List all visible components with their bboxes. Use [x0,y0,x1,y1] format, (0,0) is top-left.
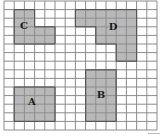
shape-cell-a [35,87,45,96]
shape-cell-b [106,87,116,96]
shape-cell-b [106,78,116,87]
shape-cell-a [14,113,24,122]
scan-artifact-dash [148,133,160,134]
shape-cell-d [106,35,116,44]
shape-cell-b [96,104,106,113]
shape-cell-d [96,35,106,44]
shape-cell-d [126,18,136,27]
shape-label-b: B [97,90,105,100]
shape-cell-d [75,18,85,27]
shape-label-c: C [20,21,28,31]
shape-cell-d [116,10,126,19]
shape-cell-b [106,96,116,105]
shape-cell-d [116,35,126,44]
shape-cell-a [24,87,34,96]
shape-cell-a [14,87,24,96]
shape-cell-a [35,104,45,113]
shape-cell-c [14,10,24,19]
shape-cell-a [45,87,55,96]
shape-cell-d [126,10,136,19]
shape-cell-c [24,10,34,19]
shape-cell-d [116,53,126,62]
shape-cell-a [14,96,24,105]
shape-cell-b [86,78,96,87]
shape-cell-b [86,87,96,96]
shape-cell-a [24,113,34,122]
shape-cell-d [75,10,85,19]
shape-label-a: A [28,97,36,107]
shape-cell-b [86,113,96,122]
shape-cell-c [35,35,45,44]
shape-cell-a [14,104,24,113]
shape-cell-a [45,113,55,122]
shape-cell-d [126,27,136,36]
shape-cell-b [106,70,116,79]
shape-cell-b [86,70,96,79]
shape-label-d: D [109,22,118,32]
shape-cell-d [96,18,106,27]
shape-cell-c [45,27,55,36]
shape-cell-c [45,35,55,44]
shape-cell-b [96,78,106,87]
shape-cell-d [96,27,106,36]
shape-cell-d [126,35,136,44]
shape-cell-a [35,113,45,122]
shape-cell-c [35,27,45,36]
shape-cell-b [106,113,116,122]
shape-cell-d [116,44,126,53]
shape-cell-b [96,70,106,79]
shape-cell-d [86,18,96,27]
shape-cell-d [126,53,136,62]
shape-cell-b [86,104,96,113]
shape-cell-d [106,10,116,19]
shape-cell-d [116,27,126,36]
shape-cell-a [45,104,55,113]
shape-cell-d [96,10,106,19]
shape-cell-b [106,104,116,113]
shape-cell-c [24,35,34,44]
shape-cell-a [45,96,55,105]
shape-cell-b [96,113,106,122]
shape-cell-d [86,10,96,19]
shape-cell-c [14,35,24,44]
shape-cell-b [86,96,96,105]
shape-cell-d [126,44,136,53]
shape-cell-d [116,18,126,27]
shape-cell-a [35,96,45,105]
